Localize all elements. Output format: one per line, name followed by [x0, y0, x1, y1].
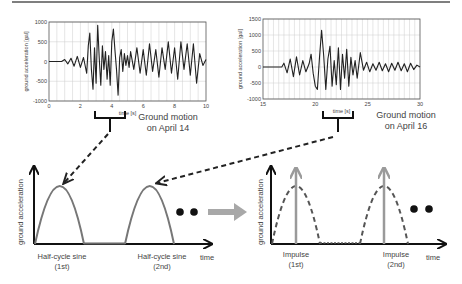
- label-sine-1st: Half-cycle sine: [38, 252, 87, 261]
- label-impulse-2nd-index: (2nd): [387, 260, 405, 269]
- y-tick-label: -1000: [33, 98, 47, 104]
- y-tick-label: 0: [44, 59, 47, 65]
- x-tick-label: 4: [110, 103, 113, 109]
- panel-y-label: ground acceleration: [256, 179, 265, 245]
- diagram-canvas: 10005000-500-10000246810time [s]ground a…: [0, 0, 462, 284]
- x-tick-label: 10: [203, 103, 209, 109]
- y-tick-label: -500: [250, 80, 261, 86]
- caption-april-14-line2: on April 14: [147, 123, 190, 133]
- label-impulse-1st-index: (1st): [289, 260, 305, 269]
- y-axis-label: ground acceleration [gal]: [237, 28, 243, 89]
- y-tick-label: 0: [258, 64, 261, 70]
- half-cycle-sine-1st: [35, 186, 84, 244]
- right-arrow-icon: [208, 203, 247, 221]
- half-cycle-sine-panel: ground acceleration time Half-cycle sine…: [16, 167, 214, 271]
- caption-april-14-line1: Ground motion: [138, 112, 198, 122]
- y-tick-label: 1500: [249, 16, 261, 22]
- label-sine-2nd: Half-cycle sine: [138, 252, 187, 261]
- x-tick-label: 8: [173, 103, 176, 109]
- caption-april-16-line2: on April 16: [385, 121, 428, 131]
- x-axis-label: time [s]: [119, 110, 137, 116]
- y-tick-label: 500: [252, 48, 261, 54]
- label-sine-1st-index: (1st): [55, 262, 71, 271]
- y-tick-label: 1000: [249, 32, 261, 38]
- x-tick-label: 30: [417, 101, 423, 107]
- y-tick-label: -500: [36, 78, 47, 84]
- x-tick-label: 25: [365, 101, 371, 107]
- label-sine-2nd-index: (2nd): [153, 262, 171, 271]
- x-axis-label: time [s]: [333, 108, 351, 114]
- y-tick-label: -1000: [247, 96, 261, 102]
- chart-april-16: 150010005000-500-100015202530time [s]gro…: [237, 16, 423, 114]
- x-tick-label: 6: [142, 103, 145, 109]
- y-tick-label: 500: [38, 39, 47, 45]
- y-axis-label: ground acceleration [gal]: [23, 31, 29, 92]
- panel-x-label: time: [200, 253, 214, 262]
- ellipsis-dot: [190, 208, 198, 216]
- x-tick-label: 15: [260, 101, 266, 107]
- panel-y-label: ground acceleration: [16, 179, 25, 245]
- ellipsis-dot: [176, 208, 184, 216]
- x-tick-label: 0: [47, 103, 50, 109]
- y-tick-label: 1000: [35, 19, 47, 25]
- dashed-arrow-april-16: [157, 137, 333, 183]
- label-impulse-2nd: Impulse: [383, 250, 409, 259]
- ellipsis-dot: [425, 205, 433, 213]
- label-impulse-1st: Impulse: [283, 250, 309, 259]
- dashed-arrow-april-14: [64, 134, 108, 183]
- ellipsis-dot: [410, 205, 418, 213]
- x-tick-label: 20: [312, 101, 318, 107]
- caption-april-16-line1: Ground motion: [376, 110, 436, 120]
- chart-april-14: 10005000-500-10000246810time [s]ground a…: [23, 19, 209, 116]
- x-tick-label: 2: [79, 103, 82, 109]
- half-cycle-sine-2nd: [125, 186, 174, 244]
- impulse-panel: ground acceleration time Impulse (1st) I…: [256, 167, 445, 269]
- panel-x-label: time: [426, 253, 440, 262]
- brace-april-16: [323, 111, 353, 132]
